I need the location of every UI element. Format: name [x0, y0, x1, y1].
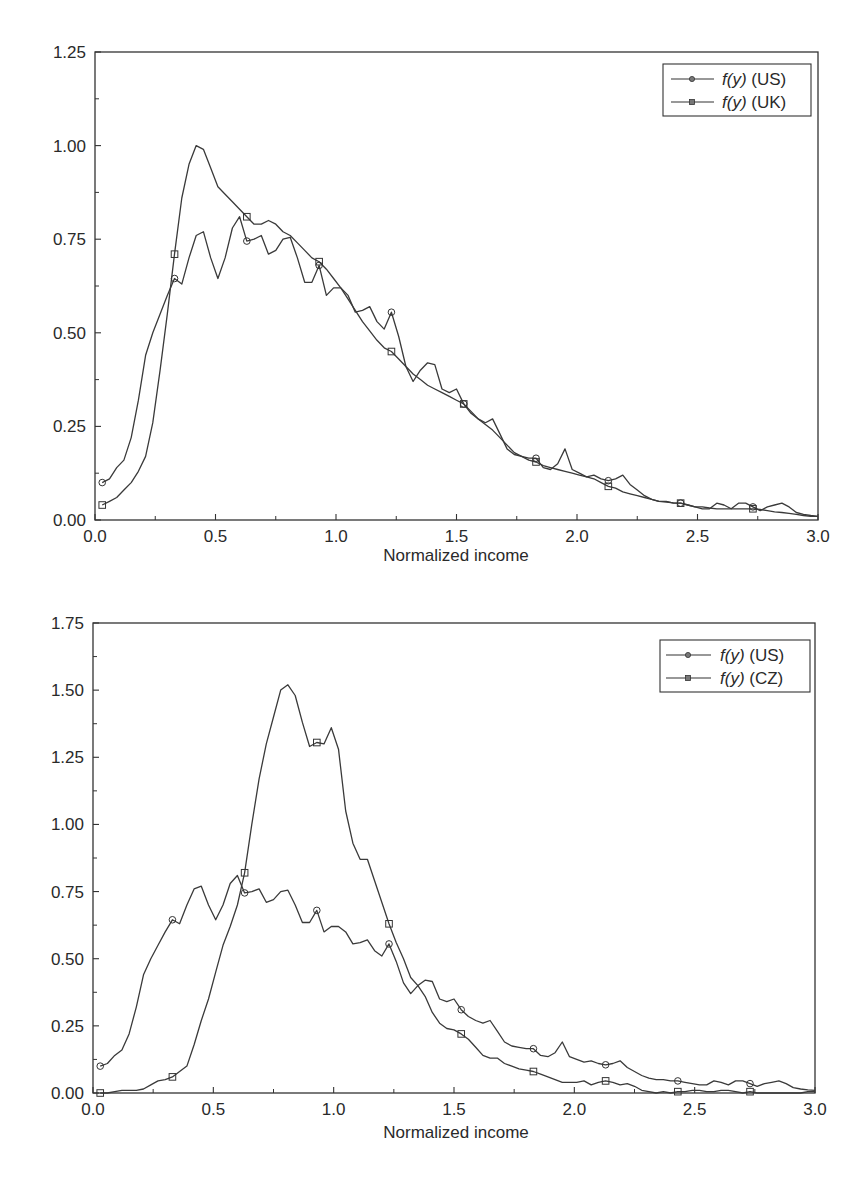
x-tick-label: 0.5 — [204, 527, 228, 546]
series-line-1 — [102, 146, 818, 517]
figure: 0.000.250.500.751.001.25 0.00.51.01.52.0… — [0, 0, 864, 1185]
plot-frame — [95, 52, 818, 520]
x-tick-label: 0.0 — [83, 527, 107, 546]
y-axis: 0.000.250.500.751.001.251.501.75 — [51, 614, 99, 1103]
y-tick-label: 1.25 — [53, 43, 86, 62]
svg-text:f(y) (UK): f(y) (UK) — [722, 93, 786, 112]
y-tick-label: 0.00 — [53, 511, 86, 530]
legend-circle-marker-icon — [685, 652, 690, 657]
y-tick-label: 1.25 — [51, 748, 84, 767]
x-tick-label: 2.0 — [563, 1100, 587, 1119]
chart-us-uk: 0.000.250.500.751.001.25 0.00.51.01.52.0… — [53, 43, 830, 565]
x-tick-label: 1.5 — [445, 527, 469, 546]
series-line-0 — [102, 217, 818, 517]
x-tick-label: 2.5 — [686, 527, 710, 546]
x-axis-label: Normalized income — [383, 546, 529, 565]
y-tick-label: 1.50 — [51, 681, 84, 700]
x-tick-label: 2.5 — [683, 1100, 707, 1119]
x-tick-label: 1.5 — [442, 1100, 466, 1119]
y-axis: 0.000.250.500.751.001.25 — [53, 43, 101, 530]
legend: f(y) (US) f(y) (CZ) — [660, 640, 810, 692]
y-tick-label: 0.50 — [51, 950, 84, 969]
y-tick-label: 1.00 — [53, 137, 86, 156]
svg-text:f(y) (US): f(y) (US) — [720, 646, 784, 665]
y-tick-label: 1.75 — [51, 614, 84, 633]
svg-text:f(y) (US): f(y) (US) — [722, 70, 786, 89]
y-tick-label: 1.00 — [51, 815, 84, 834]
y-tick-label: 0.75 — [51, 883, 84, 902]
legend: f(y) (US) f(y) (UK) — [663, 64, 811, 116]
x-axis: 0.00.51.01.52.02.53.0 — [83, 514, 830, 546]
x-axis-label: Normalized income — [383, 1123, 529, 1142]
x-tick-label: 1.0 — [324, 527, 348, 546]
y-tick-label: 0.50 — [53, 324, 86, 343]
legend-circle-marker-icon — [689, 76, 694, 81]
x-tick-label: 1.0 — [322, 1100, 346, 1119]
y-tick-label: 0.25 — [53, 417, 86, 436]
legend-square-marker-icon — [686, 676, 691, 681]
x-tick-label: 3.0 — [803, 1100, 827, 1119]
y-tick-label: 0.00 — [51, 1084, 84, 1103]
x-tick-label: 0.5 — [202, 1100, 226, 1119]
x-tick-label: 0.0 — [81, 1100, 105, 1119]
x-tick-label: 2.0 — [565, 527, 589, 546]
y-tick-label: 0.75 — [53, 230, 86, 249]
series-line-0 — [100, 876, 815, 1091]
series-lines — [102, 146, 818, 517]
svg-text:f(y) (CZ): f(y) (CZ) — [720, 669, 783, 688]
x-tick-label: 3.0 — [806, 527, 830, 546]
y-tick-label: 0.25 — [51, 1017, 84, 1036]
series-markers — [97, 739, 753, 1096]
chart-us-cz: 0.000.250.500.751.001.251.501.75 0.00.51… — [51, 614, 827, 1142]
legend-square-marker-icon — [690, 100, 695, 105]
